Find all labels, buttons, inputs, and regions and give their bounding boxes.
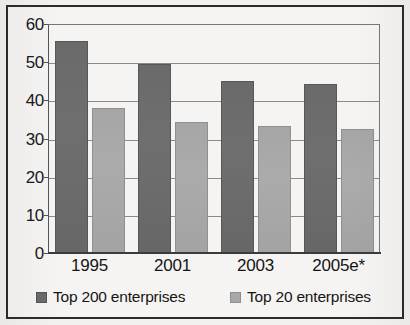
legend-swatch-icon-top-20	[230, 292, 241, 303]
bar-2005e-series2	[341, 129, 374, 253]
legend-item-top-200: Top 200 enterprises	[36, 288, 185, 306]
legend-swatch-icon-top-200	[36, 292, 47, 303]
bar-2001-series2	[175, 122, 208, 253]
bar-1995-series2	[92, 108, 125, 253]
chart-figure: 0102030405060 1995200120032005e* Top 200…	[0, 0, 410, 325]
bar-2003-series2	[258, 126, 291, 253]
y-tick-label-10: 10	[4, 206, 44, 223]
bar-2005e-series1	[304, 84, 337, 253]
x-tick-label-1995: 1995	[48, 256, 131, 276]
y-tick-label-20: 20	[4, 168, 44, 185]
bar-2003-series1	[221, 81, 254, 254]
bar-2001-series1	[138, 64, 171, 253]
y-tick-label-30: 30	[4, 130, 44, 147]
y-tick-label-60: 60	[4, 16, 44, 33]
y-tick-label-0: 0	[4, 245, 44, 262]
y-axis: 0102030405060	[0, 24, 44, 253]
y-tick-label-50: 50	[4, 54, 44, 71]
legend-label-top-200: Top 200 enterprises	[53, 288, 185, 306]
x-axis-baseline	[48, 252, 381, 254]
x-tick-label-2001: 2001	[131, 256, 214, 276]
chart-legend: Top 200 enterprises Top 20 enterprises	[30, 288, 382, 312]
x-axis-labels: 1995200120032005e*	[48, 256, 380, 282]
y-tick-label-40: 40	[4, 92, 44, 109]
bar-1995-series1	[55, 41, 88, 253]
bars-layer	[48, 24, 380, 253]
legend-label-top-20: Top 20 enterprises	[247, 288, 371, 306]
x-tick-label-2005e: 2005e*	[297, 256, 380, 276]
x-tick-label-2003: 2003	[214, 256, 297, 276]
legend-item-top-20: Top 20 enterprises	[230, 288, 371, 306]
